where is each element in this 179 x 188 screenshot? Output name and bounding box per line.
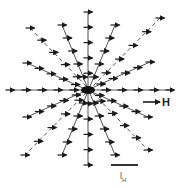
- field-label: H: [162, 96, 170, 108]
- radial-field-diagram: [0, 0, 179, 188]
- scale-label-sub: H: [122, 177, 126, 183]
- scale-label: lH: [120, 171, 126, 183]
- center-blob: [81, 86, 95, 94]
